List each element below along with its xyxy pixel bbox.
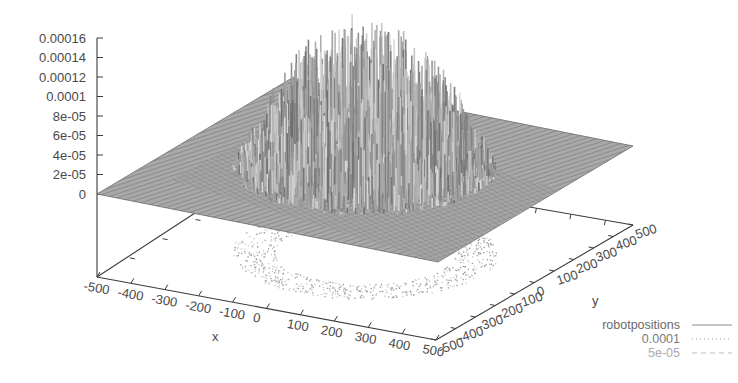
y-tick — [490, 305, 495, 306]
surface-plot: 02e-054e-056e-058e-050.00010.000120.0001… — [0, 0, 738, 383]
x-tick-label: 400 — [388, 335, 412, 354]
x-tick-label: -500 — [82, 278, 110, 297]
edge-tick — [535, 208, 536, 213]
x-tick — [233, 297, 236, 302]
z-tick-label: 0.0001 — [46, 89, 86, 104]
x-tick — [402, 329, 405, 334]
legend-label: robotpositions — [602, 318, 680, 332]
x-tick-label: -100 — [218, 303, 246, 322]
y-tick — [569, 259, 574, 260]
legend-label: 5e-05 — [648, 346, 680, 360]
x-tick-label: 300 — [354, 329, 378, 348]
x-tick — [334, 316, 337, 321]
x-tick-label: -300 — [150, 291, 178, 310]
y-tick — [451, 328, 456, 329]
edge-tick — [130, 258, 135, 259]
legend-item-0.0001: 0.0001 — [642, 332, 732, 346]
x-axis-label: x — [212, 329, 219, 344]
x-tick-label: 0 — [252, 310, 262, 326]
x-tick-label: 100 — [286, 316, 310, 335]
z-tick-label: 2e-05 — [53, 167, 86, 182]
edge-tick — [570, 214, 571, 219]
x-tick-label: -200 — [184, 297, 212, 316]
z-axis-tick-labels: 02e-054e-056e-058e-050.00010.000120.0001… — [39, 31, 86, 202]
z-tick-label: 8e-05 — [53, 109, 86, 124]
back-left-base-edge — [97, 213, 195, 277]
legend-item-5e-05: 5e-05 — [648, 346, 732, 360]
edge-tick — [604, 220, 605, 225]
y-axis-label: y — [592, 293, 599, 308]
y-tick — [628, 224, 633, 225]
x-tick — [131, 278, 134, 283]
z-tick-label: 4e-05 — [53, 148, 86, 163]
z-tick-label: 0.00014 — [39, 50, 86, 65]
x-tick — [165, 285, 168, 290]
z-tick-label: 0.00012 — [39, 70, 86, 85]
y-tick — [431, 339, 436, 340]
y-tick — [608, 236, 613, 237]
legend: robotpositions 0.0001 5e-05 — [602, 318, 732, 360]
x-tick-label: 200 — [320, 322, 344, 341]
edge-tick — [163, 239, 168, 240]
y-tick — [470, 316, 475, 317]
z-tick-label: 0.00016 — [39, 31, 86, 46]
x-tick — [199, 291, 202, 296]
y-tick-label: 500 — [633, 221, 658, 242]
z-tick-label: 0 — [79, 187, 86, 202]
back-right-edge-ticks — [535, 208, 605, 225]
y-tick — [510, 293, 515, 294]
x-tick-label: -400 — [116, 284, 144, 303]
x-axis-ticks — [97, 272, 439, 340]
x-tick — [267, 304, 270, 309]
z-axis-ticks — [97, 38, 103, 194]
legend-item-robotpositions: robotpositions — [602, 318, 732, 332]
y-tick — [589, 247, 594, 248]
y-tick — [530, 282, 535, 283]
legend-label: 0.0001 — [642, 332, 680, 346]
y-tick — [549, 270, 554, 271]
edge-tick — [196, 220, 201, 221]
z-tick-label: 6e-05 — [53, 128, 86, 143]
x-tick — [368, 322, 371, 327]
x-tick — [300, 310, 303, 315]
